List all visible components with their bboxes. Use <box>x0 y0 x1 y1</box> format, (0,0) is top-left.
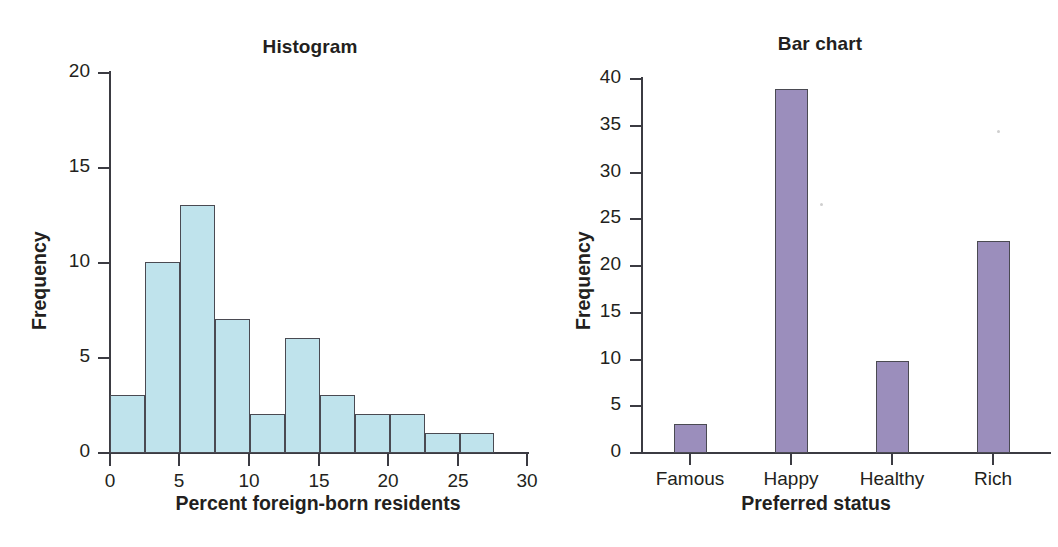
histogram-y-tick-10 <box>98 262 110 264</box>
bar-chart-x-tick-happy <box>790 453 792 465</box>
bar-chart-y-tick-15 <box>630 312 642 314</box>
histogram-bar <box>180 205 215 453</box>
histogram-bar <box>145 262 180 453</box>
bar-chart-bar <box>674 424 707 453</box>
two-panel-figure: Histogram Frequency 20 15 10 5 0 <box>0 0 1058 547</box>
histogram-x-tick-label-0: 0 <box>86 470 134 492</box>
bar-chart-y-tick-label-20: 20 <box>573 253 621 275</box>
histogram-x-tick-10 <box>248 453 250 466</box>
histogram-y-tick-label-5: 5 <box>42 345 90 367</box>
histogram-x-tick-15 <box>318 453 320 466</box>
bar-chart-y-tick-20 <box>630 265 642 267</box>
bar-chart-y-tick-40 <box>630 78 642 80</box>
histogram-x-tick-25 <box>457 453 459 466</box>
bar-chart-y-tick-10 <box>630 359 642 361</box>
histogram-x-tick-label-5: 5 <box>155 470 203 492</box>
histogram-y-tick-20 <box>98 72 110 74</box>
histogram-bar <box>390 414 425 453</box>
histogram-bar <box>215 319 250 453</box>
bar-chart-y-tick-25 <box>630 218 642 220</box>
scan-speck <box>820 203 823 206</box>
histogram-x-tick-label-15: 15 <box>295 470 343 492</box>
bar-chart-y-tick-label-35: 35 <box>573 113 621 135</box>
bar-chart-category-label-rich: Rich <box>933 468 1053 490</box>
histogram-y-tick-15 <box>98 167 110 169</box>
bar-chart-y-tick-label-25: 25 <box>573 206 621 228</box>
histogram-bar <box>250 414 285 453</box>
histogram-x-tick-0 <box>109 453 111 466</box>
bar-chart-y-tick-label-0: 0 <box>573 440 621 462</box>
bar-chart-y-tick-35 <box>630 125 642 127</box>
bar-chart-panel: Bar chart Frequency 40 35 30 25 20 15 10 <box>545 0 1058 547</box>
histogram-y-tick-label-0: 0 <box>42 440 90 462</box>
bar-chart-x-tick-rich <box>992 453 994 465</box>
bar-chart-y-tick-30 <box>630 172 642 174</box>
bar-chart-bar <box>977 241 1010 453</box>
histogram-x-tick-label-30: 30 <box>503 470 551 492</box>
histogram-x-tick-5 <box>178 453 180 466</box>
histogram-bar <box>110 395 145 453</box>
histogram-bar <box>320 395 355 453</box>
bar-chart-y-tick-label-30: 30 <box>573 160 621 182</box>
histogram-y-tick-label-15: 15 <box>42 155 90 177</box>
histogram-x-tick-label-20: 20 <box>364 470 412 492</box>
bar-chart-x-axis-title: Preferred status <box>691 492 941 515</box>
histogram-x-tick-label-25: 25 <box>434 470 482 492</box>
bar-chart-y-tick-label-5: 5 <box>573 393 621 415</box>
scan-speck <box>997 130 1000 133</box>
histogram-x-tick-label-10: 10 <box>225 470 273 492</box>
bar-chart-y-tick-5 <box>630 405 642 407</box>
histogram-panel: Histogram Frequency 20 15 10 5 0 <box>0 0 545 547</box>
histogram-x-tick-30 <box>526 453 528 466</box>
histogram-bar <box>425 433 460 453</box>
bar-chart-x-tick-famous <box>689 453 691 465</box>
bar-chart-y-tick-label-40: 40 <box>573 66 621 88</box>
histogram-y-tick-label-10: 10 <box>42 250 90 272</box>
histogram-x-tick-20 <box>387 453 389 466</box>
bar-chart-plot-area: 40 35 30 25 20 15 10 5 0 Famous Happy He… <box>545 0 1058 547</box>
histogram-y-tick-label-20: 20 <box>42 60 90 82</box>
histogram-bar <box>355 414 390 453</box>
histogram-plot-area: 20 15 10 5 0 0 5 10 15 20 25 30 <box>0 0 545 547</box>
bar-chart-y-tick-label-10: 10 <box>573 347 621 369</box>
histogram-bar <box>460 433 494 453</box>
bar-chart-y-tick-label-15: 15 <box>573 300 621 322</box>
bar-chart-y-tick-0 <box>630 452 642 454</box>
bar-chart-x-tick-healthy <box>891 453 893 465</box>
bar-chart-bar <box>775 89 808 453</box>
bar-chart-bar <box>876 361 909 453</box>
histogram-x-axis-title: Percent foreign-born residents <box>118 492 518 515</box>
histogram-bar <box>285 338 320 453</box>
histogram-y-tick-5 <box>98 357 110 359</box>
